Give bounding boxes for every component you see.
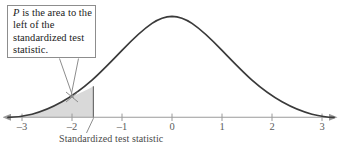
callout-text-body: is the area to the left of the standardi… [13,7,92,55]
figure-canvas: P is the area to the left of the standar… [0,0,340,150]
axis-annotation-label: Standardized test statistic [59,133,163,144]
tick-label-minus-2: –2 [60,121,84,132]
tick-label-minus-1: –1 [110,121,134,132]
tick-label-zero: 0 [160,121,184,132]
callout-text: P is the area to the left of the standar… [13,7,95,57]
shaded-tail-region [10,87,93,118]
tick-label-plus-3: 3 [310,121,334,132]
tick-label-minus-3: –3 [10,121,34,132]
tick-label-plus-1: 1 [210,121,234,132]
tick-label-plus-2: 2 [260,121,284,132]
annotation-leader-line [87,119,94,133]
callout-box: P is the area to the left of the standar… [7,5,96,58]
